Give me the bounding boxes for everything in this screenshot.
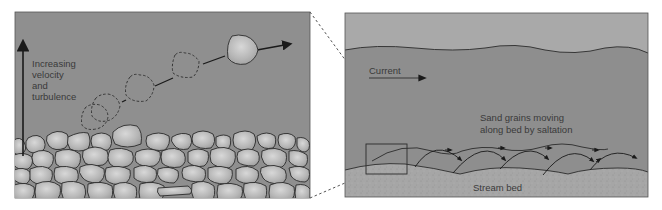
saltation-label: Sand grains moving along bed by saltatio… (480, 112, 572, 135)
cobble-bed (14, 125, 310, 201)
current-label: Current (369, 65, 401, 76)
stream-bed-label: Stream bed (473, 182, 522, 193)
saltation-diagram: Increasing velocity and turbulence (0, 0, 662, 210)
left-panel: Increasing velocity and turbulence (14, 12, 310, 201)
right-panel: Current Sand grains moving along bed by … (345, 13, 648, 197)
